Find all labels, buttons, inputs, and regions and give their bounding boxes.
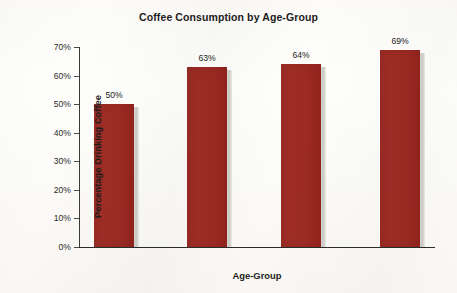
chart-page: Coffee Consumption by Age-Group 0% 10% 2… <box>0 0 457 293</box>
y-axis-tick <box>74 190 79 191</box>
bar[interactable] <box>281 64 321 247</box>
y-axis-title: Percentage Drinking Coffee <box>92 77 103 237</box>
y-axis-tick <box>74 133 79 134</box>
bar-value-label: 63% <box>179 53 235 63</box>
y-axis-tick <box>74 218 79 219</box>
bar[interactable] <box>187 67 227 247</box>
bar-shadow <box>420 53 425 247</box>
bar-value-label: 64% <box>273 50 329 60</box>
y-axis-tick-label: 60% <box>54 71 71 81</box>
y-axis-tick-label: 10% <box>54 213 71 223</box>
y-axis-tick-label: 30% <box>54 156 71 166</box>
y-axis-tick <box>74 104 79 105</box>
y-axis-line <box>79 47 80 247</box>
chart-title: Coffee Consumption by Age-Group <box>0 11 457 23</box>
y-axis-tick-label: 40% <box>54 128 71 138</box>
y-axis-tick <box>74 76 79 77</box>
bar-value-label: 69% <box>372 36 428 46</box>
y-axis-tick <box>74 247 79 248</box>
y-axis-tick-label: 70% <box>54 42 71 52</box>
bar[interactable] <box>380 50 420 247</box>
bar-shadow <box>227 70 232 247</box>
y-axis-tick-label: 20% <box>54 185 71 195</box>
bar-shadow <box>321 67 326 247</box>
x-axis-title: Age-Group <box>79 270 435 281</box>
y-axis-tick <box>74 47 79 48</box>
y-axis-tick-label: 0% <box>59 242 71 252</box>
y-axis-tick-label: 50% <box>54 99 71 109</box>
y-axis-tick <box>74 161 79 162</box>
bar-shadow <box>134 107 139 247</box>
plot-area: 0% 10% 20% 30% 40% 50% 60% 70% <box>79 47 439 247</box>
